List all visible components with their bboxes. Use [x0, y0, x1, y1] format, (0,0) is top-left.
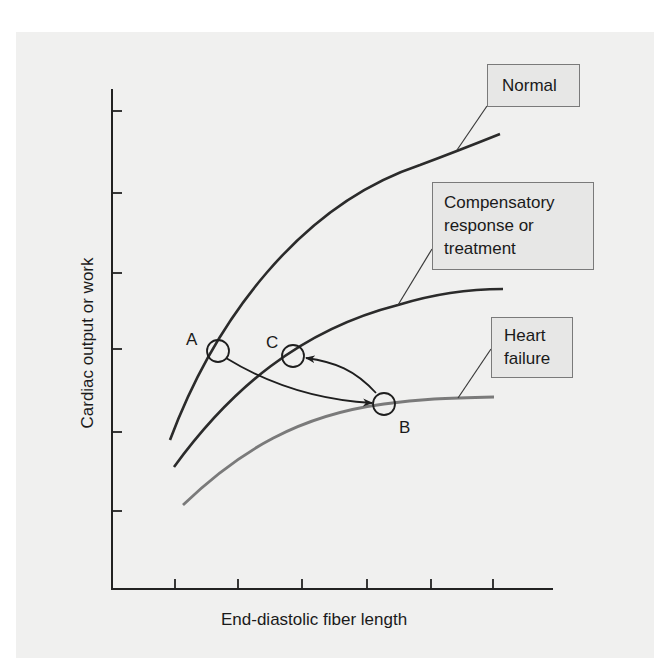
arrow-b-to-c: [306, 358, 376, 393]
y-axis-ticks: [112, 111, 122, 511]
legend-normal-text: Normal: [502, 76, 557, 95]
leader-heart-failure: [458, 349, 491, 398]
legend-box-compensatory: Compensatory response or treatment: [432, 182, 594, 270]
curve-heart-failure: [183, 397, 494, 505]
point-b-label: B: [399, 418, 410, 438]
point-c-label: C: [266, 333, 278, 353]
leader-normal: [457, 106, 487, 150]
legend-heart-failure-line2: failure: [504, 347, 572, 370]
point-a-label: A: [186, 330, 197, 350]
legend-compensatory-line2: response or: [444, 214, 593, 237]
legend-box-heart-failure: Heart failure: [491, 317, 573, 378]
legend-compensatory-line3: treatment: [444, 237, 593, 260]
curve-normal: [170, 134, 500, 440]
legend-compensatory-line1: Compensatory: [444, 191, 593, 214]
legend-box-normal: Normal: [487, 64, 580, 107]
x-axis-ticks: [175, 579, 493, 589]
curve-compensatory: [174, 289, 503, 467]
y-axis-title: Cardiac output or work: [78, 257, 98, 428]
legend-heart-failure-line1: Heart: [504, 324, 572, 347]
x-axis-title: End-diastolic fiber length: [221, 610, 407, 630]
